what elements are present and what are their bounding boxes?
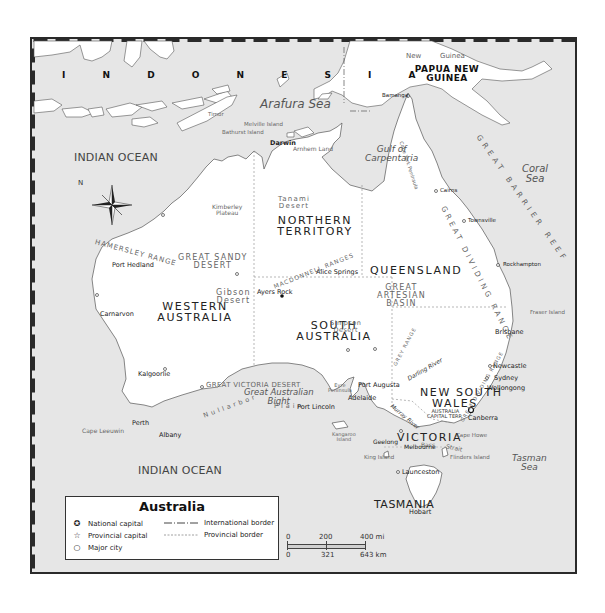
scale-tick-0 (287, 541, 288, 550)
label-gibson: Gibson Desert (216, 289, 251, 305)
city-ayers-rock: Ayers Rock (257, 289, 293, 296)
label-great-victoria-desert: GREAT VICTORIA DESERT (206, 382, 301, 389)
legend-international-border: International border (164, 519, 274, 527)
city-cape-leeuwin: Cape Leeuwin (82, 428, 124, 434)
kimberley-line2: Plateau (212, 210, 242, 216)
legend-label-national-capital: National capital (88, 520, 143, 528)
state-label-qld: QUEENSLAND (370, 265, 462, 276)
indonesia-islands (34, 41, 289, 131)
city-geelong: Geelong (373, 439, 398, 445)
scale-mi-400: 400 mi (360, 533, 384, 541)
legend-label-provincial-capital: Provincial capital (88, 532, 147, 540)
city-bamanga: Bamanga (382, 93, 408, 99)
map-legend: Australia ✪ National capital ☆ Provincia… (65, 496, 279, 560)
wa-line2: AUSTRALIA (150, 312, 240, 323)
scale-km-321: 321 (321, 551, 334, 559)
national-capital-icon: ✪ (72, 519, 82, 528)
city-perth: Perth (132, 420, 149, 427)
compass-north-label: N (78, 180, 83, 187)
legend-provincial-border: Provincial border (164, 531, 263, 539)
legend-label-international-border: International border (204, 519, 274, 527)
city-canberra: Canberra (468, 415, 498, 422)
label-great-artesian-basin: GREAT ARTESIAN BASIN (377, 284, 426, 308)
scale-mi-200: 200 (319, 533, 332, 541)
tanami-line2: Desert (278, 203, 310, 210)
label-guinea: Guinea (440, 53, 465, 60)
new-guinea (314, 41, 552, 125)
label-indian-ocean-south: INDIAN OCEAN (138, 465, 222, 476)
state-label-act: AUSTRALIA CAPITAL TERR. (427, 409, 463, 419)
compass-rose-icon (92, 185, 132, 225)
provincial-border-icon (164, 532, 198, 538)
coral-line2: Sea (522, 174, 548, 184)
label-flinders-island: Flinders Island (450, 455, 490, 461)
label-arafura-sea: Arafura Sea (260, 98, 331, 110)
city-brisbane: Brisbane (495, 329, 524, 336)
label-fraser-island: Fraser Island (530, 310, 565, 316)
eyre-line2: Peninsula (328, 388, 352, 393)
city-carnarvon: Carnarvon (100, 311, 134, 318)
country-label-png: PAPUA NEW GUINEA (407, 65, 487, 83)
map-frame: I N D O N E S I A PAPUA NEW GUINEA New G… (30, 37, 577, 574)
provincial-capital-icon: ☆ (72, 531, 82, 540)
state-label-nt: NORTHERN TERRITORY (275, 215, 355, 237)
legend-label-major-city: Major city (88, 544, 122, 552)
city-port-hedland: Port Hedland (112, 262, 154, 269)
state-label-vic: VICTORIA (397, 432, 462, 443)
sandy-line2: DESERT (178, 262, 248, 270)
city-cairns: Cairns (440, 188, 457, 194)
city-cape-howe: Cape Howe (456, 433, 487, 439)
label-kangaroo-island: Kangaroo Island (332, 432, 356, 442)
scale-km-0: 0 (286, 551, 290, 559)
legend-label-provincial-border: Provincial border (204, 531, 263, 539)
city-adelaide: Adelaide (348, 395, 376, 402)
legend-title: Australia (66, 499, 278, 514)
label-melville: Melville Island (244, 122, 283, 128)
city-rockhampton: Rockhampton (503, 262, 541, 268)
major-city-icon: ○ (72, 543, 82, 552)
tasman-line2: Sea (512, 463, 547, 472)
png-line2: GUINEA (407, 74, 487, 83)
city-darwin: Darwin (270, 140, 296, 147)
city-kalgoorlie: Kalgoorlie (138, 371, 170, 378)
scale-bar: 0 200 400 mi 0 321 643 km (286, 533, 406, 563)
label-new: New (406, 53, 421, 60)
gibson-line2: Desert (216, 297, 251, 305)
label-indian-ocean-north: INDIAN OCEAN (74, 152, 158, 163)
city-albany: Albany (159, 432, 181, 439)
city-sydney: Sydney (494, 375, 518, 382)
city-townsville: Townsville (468, 218, 496, 224)
act-line2: CAPITAL TERR. (427, 414, 463, 419)
scale-tick-mid (326, 541, 327, 550)
city-launceston: Launceston (402, 469, 439, 476)
simpson-line2: Desert (330, 327, 361, 334)
city-alice-springs: Alice Springs (316, 269, 358, 276)
label-great-sandy: GREAT SANDY DESERT (178, 254, 248, 270)
kangaroo-line2: Island (332, 437, 356, 442)
legend-provincial-capital: ☆ Provincial capital (72, 531, 147, 540)
scale-tick-end (365, 541, 366, 550)
label-eyre-peninsula: Eyre Peninsula (328, 383, 352, 393)
label-coral-sea: Coral Sea (522, 164, 548, 184)
legend-major-city: ○ Major city (72, 543, 122, 552)
city-hobart: Hobart (409, 509, 431, 516)
label-tanami: Tanami Desert (278, 196, 310, 210)
country-label-indonesia: I N D O N E S I A (62, 71, 433, 80)
artesian-line3: BASIN (377, 300, 426, 308)
city-port-augusta: Port Augusta (358, 382, 400, 389)
label-arnhem-land: Arnhem Land (293, 146, 333, 152)
label-kimberley: Kimberley Plateau (212, 204, 242, 216)
city-newcastle: Newcastle (493, 363, 526, 370)
label-bathurst: Bathurst Island (222, 130, 264, 136)
city-melbourne: Melbourne (404, 444, 436, 450)
tiwi-islands (287, 127, 314, 137)
legend-national-capital: ✪ National capital (72, 519, 143, 528)
label-tasman-sea: Tasman Sea (512, 454, 547, 472)
city-port-lincoln: Port Lincoln (297, 404, 335, 411)
nt-line2: TERRITORY (275, 226, 355, 237)
label-timor: Timor (208, 112, 224, 118)
scale-km-643: 643 km (360, 551, 386, 559)
scale-mi-0: 0 (286, 533, 290, 541)
international-border-icon (164, 520, 198, 526)
label-king-island: King Island (364, 455, 394, 461)
